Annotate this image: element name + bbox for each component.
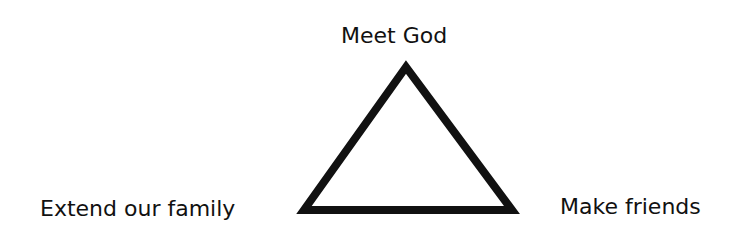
vertex-label-top: Meet God (341, 25, 447, 47)
vertex-label-bottom-left: Extend our family (40, 198, 235, 220)
vertex-label-bottom-right: Make friends (560, 196, 701, 218)
